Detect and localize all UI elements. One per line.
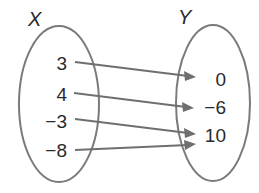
domain-set-label: X xyxy=(27,8,42,30)
domain-value-1: 3 xyxy=(56,53,67,74)
arrowhead-icon xyxy=(184,128,196,138)
range-set-label: Y xyxy=(178,6,193,28)
range-value-1: 0 xyxy=(215,69,226,90)
range-value-2: −6 xyxy=(204,97,226,118)
arrowhead-icon xyxy=(184,71,196,81)
domain-value-2: 4 xyxy=(56,84,67,105)
arrowhead-icon xyxy=(182,102,194,112)
arrowhead-icon xyxy=(184,140,196,150)
mapping-diagram: X Y 3 4 −3 −8 0 −6 10 xyxy=(0,0,259,193)
domain-value-4: −8 xyxy=(45,140,67,161)
range-value-3: 10 xyxy=(205,125,226,146)
domain-value-3: −3 xyxy=(45,111,67,132)
